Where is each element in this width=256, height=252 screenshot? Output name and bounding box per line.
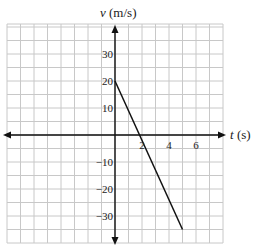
velocity-time-chart: 246302010−10−20−30 v (m/s) t (s) xyxy=(0,0,256,252)
y-axis-up-arrow-icon xyxy=(112,25,119,33)
y-axis-label: v (m/s) xyxy=(100,5,136,20)
y-tick-label: −20 xyxy=(96,183,114,195)
x-axis-right-arrow-icon xyxy=(218,132,226,139)
y-tick-label: −10 xyxy=(96,156,114,168)
velocity-line xyxy=(115,81,183,230)
y-tick-label: 20 xyxy=(102,75,114,87)
data-series xyxy=(115,81,183,230)
axes xyxy=(3,25,226,245)
x-tick-label: 2 xyxy=(139,139,145,151)
x-tick-label: 4 xyxy=(166,139,172,151)
y-tick-label: −30 xyxy=(96,210,114,222)
y-axis-down-arrow-icon xyxy=(112,237,119,245)
x-axis-label: t (s) xyxy=(230,127,251,142)
x-tick-label: 6 xyxy=(193,139,199,151)
y-tick-label: 10 xyxy=(102,102,114,114)
y-tick-label: 30 xyxy=(102,48,114,60)
